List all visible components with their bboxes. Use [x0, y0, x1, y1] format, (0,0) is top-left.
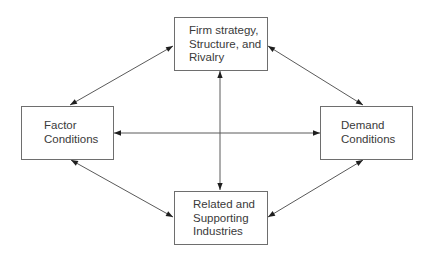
arrow-related-factor	[71, 160, 173, 217]
node-related-supporting-label: Related and Supporting Industries	[193, 198, 255, 239]
node-factor-conditions-label: Factor Conditions	[44, 119, 98, 146]
porter-diamond-diagram: Firm strategy, Structure, and Rivalry Fa…	[0, 0, 430, 255]
node-related-supporting: Related and Supporting Industries	[174, 191, 268, 245]
node-demand-conditions-label: Demand Conditions	[341, 119, 395, 146]
arrow-firm-factor	[70, 46, 173, 105]
node-factor-conditions: Factor Conditions	[21, 106, 114, 160]
node-demand-conditions: Demand Conditions	[320, 106, 413, 160]
node-firm-strategy: Firm strategy, Structure, and Rivalry	[174, 17, 268, 71]
arrow-related-demand	[268, 160, 363, 217]
arrow-firm-demand	[268, 46, 363, 105]
node-firm-strategy-label: Firm strategy, Structure, and Rivalry	[189, 24, 261, 65]
